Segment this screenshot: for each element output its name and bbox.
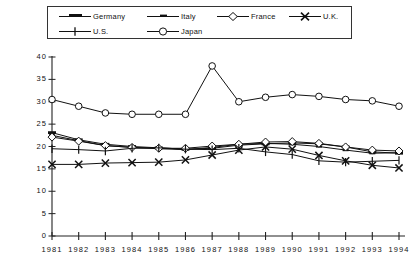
x-tick-label: 1993	[359, 245, 385, 254]
x-tick-label: 1984	[119, 245, 145, 254]
x-tick-label: 1985	[146, 245, 172, 254]
x-tick-label: 1994	[386, 245, 412, 254]
chart-figure: Germany Italy France	[0, 0, 415, 259]
y-tick-label: 35	[20, 74, 47, 83]
series-japan	[49, 63, 403, 118]
x-tick-label: 1988	[226, 245, 252, 254]
y-tick-label: 0	[20, 231, 47, 240]
x-tick-label: 1983	[92, 245, 118, 254]
x-tick-label: 1989	[253, 245, 279, 254]
x-tick-label: 1990	[279, 245, 305, 254]
x-tick-label: 1987	[199, 245, 225, 254]
x-tick-label: 1986	[172, 245, 198, 254]
x-tick-label: 1991	[306, 245, 332, 254]
y-tick-label: 15	[20, 164, 47, 173]
y-tick-label: 20	[20, 142, 47, 151]
y-tick-label: 25	[20, 119, 47, 128]
y-tick-label: 40	[20, 52, 47, 61]
x-tick-label: 1992	[333, 245, 359, 254]
y-tick-label: 5	[20, 209, 47, 218]
x-tick-label: 1982	[66, 245, 92, 254]
chart-plot-area	[0, 0, 415, 259]
y-tick-label: 10	[20, 186, 47, 195]
x-tick-label: 1981	[39, 245, 65, 254]
y-tick-label: 30	[20, 97, 47, 106]
chart-series-layer	[48, 63, 403, 172]
